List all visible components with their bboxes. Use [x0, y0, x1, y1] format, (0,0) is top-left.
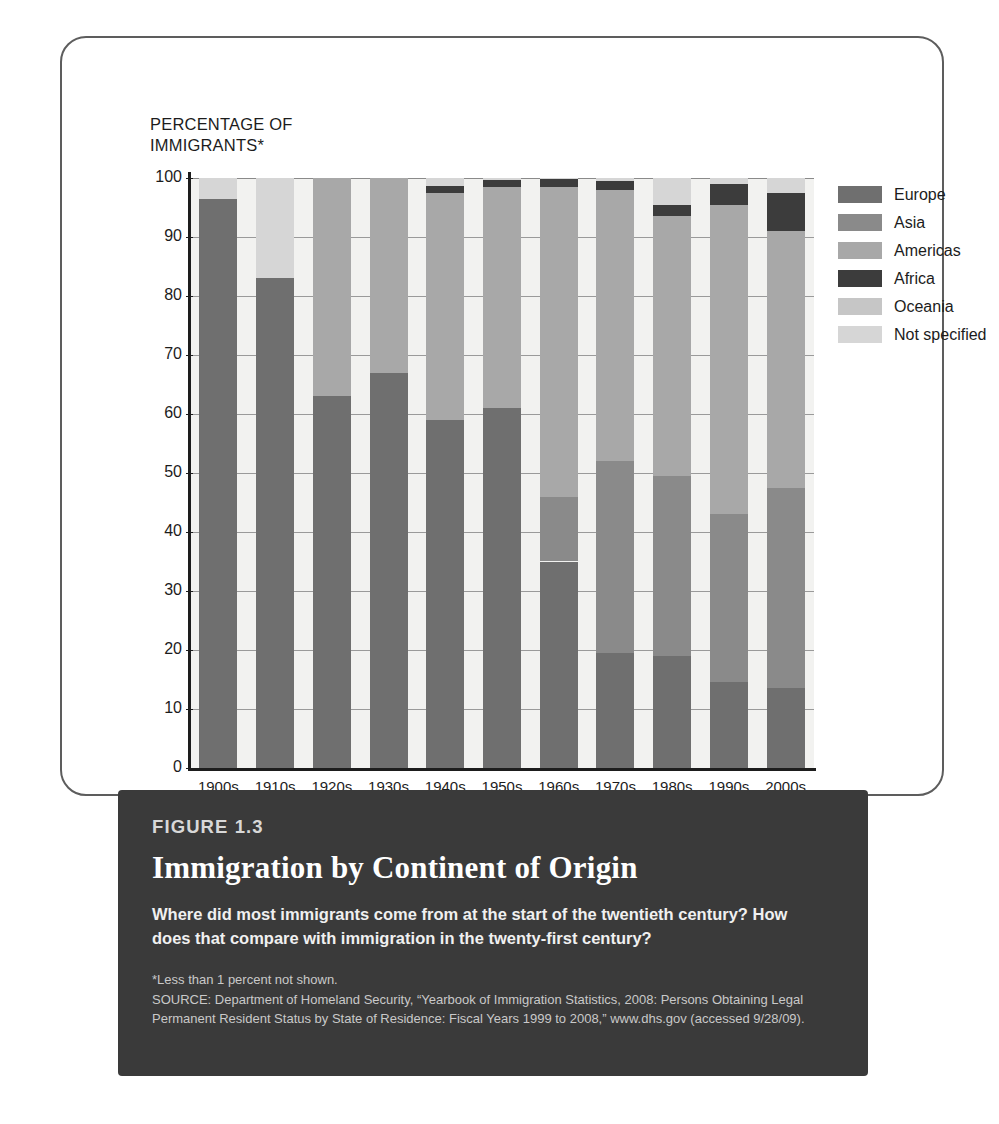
- bar-segment: [653, 205, 691, 217]
- y-tick-label: 100: [148, 168, 182, 186]
- bar-segment: [426, 178, 464, 186]
- bar-segment: [596, 181, 634, 190]
- figure-number: FIGURE 1.3: [152, 816, 834, 838]
- bar-segment: [710, 514, 748, 682]
- y-tick-mark: [186, 532, 193, 533]
- y-tick-mark: [186, 178, 193, 179]
- bar-segment: [653, 476, 691, 656]
- bar-segment: [540, 187, 578, 497]
- bar-segment: [199, 178, 237, 199]
- bar-segment: [370, 373, 408, 768]
- legend-item-europe[interactable]: Europe: [838, 182, 998, 207]
- plot-area: [190, 178, 814, 768]
- bar-segment: [313, 178, 351, 396]
- bar-column[interactable]: [483, 178, 521, 768]
- bar-segment: [199, 199, 237, 768]
- bar-segment: [256, 178, 294, 278]
- legend-label: Asia: [894, 214, 925, 232]
- y-tick-label: 70: [148, 345, 182, 363]
- y-tick-label: 50: [148, 463, 182, 481]
- legend-label: Europe: [894, 186, 946, 204]
- bar-segment: [596, 653, 634, 768]
- bar-segment: [710, 184, 748, 205]
- y-tick-mark: [186, 650, 193, 651]
- bar-segment: [540, 497, 578, 562]
- bar-segment: [767, 688, 805, 768]
- legend-label: Oceania: [894, 298, 954, 316]
- legend-item-oceania[interactable]: Oceania: [838, 294, 998, 319]
- bar-segment: [653, 656, 691, 768]
- bar-segment: [710, 178, 748, 184]
- bar-segment: [540, 179, 578, 187]
- bar-segment: [426, 193, 464, 420]
- legend-swatch-icon: [838, 214, 882, 231]
- bar-segment: [256, 278, 294, 768]
- legend-item-africa[interactable]: Africa: [838, 266, 998, 291]
- figure-footnote: *Less than 1 percent not shown.: [152, 970, 834, 990]
- figure-title: Immigration by Continent of Origin: [152, 850, 834, 886]
- y-tick-mark: [186, 296, 193, 297]
- legend-swatch-icon: [838, 298, 882, 315]
- y-tick-mark: [186, 473, 193, 474]
- legend-label: Americas: [894, 242, 961, 260]
- bar-column[interactable]: [596, 178, 634, 768]
- bar-column[interactable]: [426, 178, 464, 768]
- bar-segment: [483, 180, 521, 187]
- y-tick-label: 0: [148, 758, 182, 776]
- bar-segment: [653, 216, 691, 476]
- figure-subtitle: Where did most immigrants come from at t…: [152, 902, 824, 950]
- bar-segment: [710, 205, 748, 515]
- figure-root: PERCENTAGE OF IMMIGRANTS* 01020304050607…: [0, 0, 999, 1124]
- legend-item-not-specified[interactable]: Not specified: [838, 322, 998, 347]
- bar-segment: [540, 562, 578, 769]
- legend-swatch-icon: [838, 326, 882, 343]
- bar-segment: [313, 396, 351, 768]
- legend-swatch-icon: [838, 186, 882, 203]
- bar-column[interactable]: [256, 178, 294, 768]
- y-tick-mark: [186, 591, 193, 592]
- bar-segment: [370, 178, 408, 373]
- bar-column[interactable]: [540, 178, 578, 768]
- bar-segment: [483, 178, 521, 180]
- legend-label: Not specified: [894, 326, 987, 344]
- bar-segment: [596, 461, 634, 653]
- bar-column[interactable]: [370, 178, 408, 768]
- y-tick-label: 10: [148, 699, 182, 717]
- legend-swatch-icon: [838, 270, 882, 287]
- bar-column[interactable]: [199, 178, 237, 768]
- legend-swatch-icon: [838, 242, 882, 259]
- y-tick-label: 90: [148, 227, 182, 245]
- y-tick-mark: [186, 709, 193, 710]
- bar-segment: [483, 187, 521, 408]
- chart-card: PERCENTAGE OF IMMIGRANTS* 01020304050607…: [60, 36, 944, 796]
- bar-segment: [540, 178, 578, 179]
- y-axis-title: PERCENTAGE OF IMMIGRANTS*: [150, 114, 293, 156]
- bar-column[interactable]: [653, 178, 691, 768]
- x-axis-line: [188, 768, 816, 771]
- figure-source: SOURCE: Department of Homeland Security,…: [152, 990, 834, 1029]
- y-tick-label: 20: [148, 640, 182, 658]
- bar-column[interactable]: [710, 178, 748, 768]
- y-tick-mark: [186, 768, 193, 769]
- chart-legend: EuropeAsiaAmericasAfricaOceaniaNot speci…: [838, 182, 998, 350]
- bar-segment: [596, 178, 634, 181]
- bar-segment: [596, 190, 634, 461]
- bar-segment: [767, 193, 805, 231]
- bar-column[interactable]: [313, 178, 351, 768]
- bar-segment: [483, 408, 521, 768]
- bar-segment: [653, 178, 691, 205]
- caption-panel: FIGURE 1.3 Immigration by Continent of O…: [118, 790, 868, 1076]
- y-axis-tick-labels: 0102030405060708090100: [146, 178, 182, 768]
- bar-segment: [426, 186, 464, 193]
- bar-segment: [767, 488, 805, 689]
- legend-item-americas[interactable]: Americas: [838, 238, 998, 263]
- legend-item-asia[interactable]: Asia: [838, 210, 998, 235]
- y-tick-label: 60: [148, 404, 182, 422]
- bar-column[interactable]: [767, 178, 805, 768]
- bar-segment: [426, 420, 464, 768]
- y-tick-label: 30: [148, 581, 182, 599]
- legend-label: Africa: [894, 270, 935, 288]
- y-tick-mark: [186, 414, 193, 415]
- y-tick-mark: [186, 237, 193, 238]
- bar-segment: [767, 178, 805, 193]
